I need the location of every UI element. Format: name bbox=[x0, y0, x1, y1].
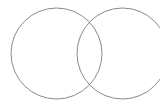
left-circle bbox=[11, 8, 102, 99]
right-circle bbox=[77, 8, 160, 99]
venn-diagram bbox=[0, 0, 160, 109]
